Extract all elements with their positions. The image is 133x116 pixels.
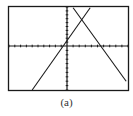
screen-frame [9, 7, 129, 91]
calculator-graph-screen [0, 0, 133, 96]
figure-caption: (a) [0, 96, 133, 108]
